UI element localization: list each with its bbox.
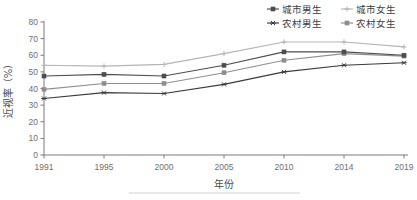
- y-tick-label: 30: [29, 100, 39, 110]
- y-tick-label: 60: [29, 50, 39, 60]
- x-tick-label: 2014: [335, 162, 354, 172]
- y-axis-title: 近视率（%）: [2, 59, 14, 119]
- y-tick-label: 40: [29, 84, 39, 94]
- data-point-0-6: [402, 53, 406, 57]
- chart-canvas: 0102030405060708019911995200020052010201…: [0, 0, 417, 200]
- legend-label-2: 农村男生: [282, 18, 322, 29]
- y-tick-label: 50: [29, 67, 39, 77]
- y-tick-label: 0: [33, 150, 38, 160]
- data-point-3-3: [222, 71, 226, 75]
- legend-marker-0: [271, 7, 275, 11]
- x-tick-label: 2000: [155, 162, 174, 172]
- x-tick-label: 1995: [95, 162, 114, 172]
- data-point-3-0: [42, 87, 46, 91]
- legend-marker-3: [345, 21, 349, 25]
- x-tick-label: 1991: [35, 162, 54, 172]
- x-tick-label: 2019: [395, 162, 414, 172]
- y-tick-label: 80: [29, 17, 39, 27]
- y-tick-label: 70: [29, 34, 39, 44]
- data-point-0-3: [222, 63, 226, 67]
- y-tick-label: 10: [29, 133, 39, 143]
- data-point-0-1: [102, 72, 106, 76]
- x-tick-label: 2010: [275, 162, 294, 172]
- legend-label-0: 城市男生: [282, 4, 322, 15]
- y-tick-label: 20: [29, 117, 39, 127]
- data-point-0-2: [162, 74, 166, 78]
- myopia-rate-line-chart: 0102030405060708019911995200020052010201…: [0, 0, 417, 200]
- data-point-3-4: [282, 58, 286, 62]
- legend-label-3: 农村女生: [356, 18, 396, 29]
- data-point-0-0: [42, 74, 46, 78]
- data-point-3-1: [102, 82, 106, 86]
- series-line-2: [44, 63, 404, 99]
- x-axis-title: 年份: [214, 178, 234, 190]
- data-point-3-2: [162, 82, 166, 86]
- data-point-0-5: [342, 50, 346, 54]
- legend-label-1: 城市女生: [356, 4, 396, 15]
- x-tick-label: 2005: [215, 162, 234, 172]
- data-point-0-4: [282, 50, 286, 54]
